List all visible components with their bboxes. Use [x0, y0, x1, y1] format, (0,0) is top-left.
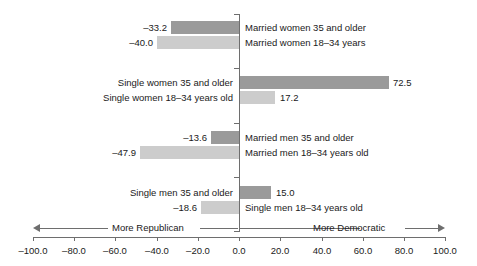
- x-tick: [115, 237, 116, 241]
- bar-label-married-men-35-and-older: Married men 35 and older: [245, 131, 354, 144]
- x-tick: [445, 237, 446, 241]
- x-tick-label: –60.0: [103, 245, 127, 257]
- bar-value-single-men-35-and-older: 15.0: [276, 186, 295, 199]
- x-tick: [33, 237, 34, 241]
- arrow-left-icon: [33, 224, 40, 232]
- bar-label-single-women-35-and-older: Single women 35 and older: [75, 76, 233, 89]
- group-notch: [234, 177, 239, 178]
- x-tick-label: 80.0: [395, 245, 414, 257]
- bar-value-married-women-18-34-years: –40.0: [96, 36, 153, 49]
- bar-value-single-men-18-34-years-old: –18.6: [140, 201, 197, 214]
- x-tick-label: –40.0: [145, 245, 169, 257]
- x-tick: [239, 237, 240, 241]
- bar-value-married-men-18-34-years-old: –47.9: [79, 146, 136, 159]
- x-tick-label: –20.0: [186, 245, 210, 257]
- bar-label-single-men-35-and-older: Single men 35 and older: [88, 186, 233, 199]
- bar-married-women-35-and-older: [171, 21, 239, 34]
- bar-label-married-women-18-34-years: Married women 18–34 years: [245, 36, 365, 49]
- bar-single-women-35-and-older: [240, 76, 389, 89]
- x-tick-label: 100.0: [433, 245, 457, 257]
- bar-married-women-18-34-years: [157, 36, 239, 49]
- arrow-right-icon: [438, 224, 445, 232]
- plot-area: –33.2 Married women 35 and older –40.0 M…: [0, 0, 477, 232]
- x-tick-label: 0.0: [232, 245, 245, 257]
- annotation-left-label: More Republican: [112, 222, 184, 234]
- direction-annotation-band: More Republican More Democratic: [0, 222, 477, 236]
- bar-label-single-women-18-34-years-old: Single women 18–34 years old: [63, 91, 233, 104]
- bar-value-married-women-35-and-older: –33.2: [110, 21, 167, 34]
- group-notch: [234, 68, 239, 69]
- bar-label-married-women-35-and-older: Married women 35 and older: [245, 21, 366, 34]
- annotation-rule-right: [405, 228, 438, 229]
- bar-single-women-18-34-years-old: [240, 91, 275, 104]
- diverging-bar-chart: –33.2 Married women 35 and older –40.0 M…: [0, 0, 477, 266]
- annotation-right-label: More Democratic: [313, 222, 385, 234]
- group-notch: [234, 123, 239, 124]
- x-tick-label: 60.0: [354, 245, 373, 257]
- bar-married-men-35-and-older: [211, 131, 239, 144]
- annotation-rule-left-inner: [200, 228, 238, 229]
- bar-label-single-men-18-34-years-old: Single men 18–34 years old: [245, 201, 363, 214]
- bar-value-single-women-18-34-years-old: 17.2: [280, 91, 299, 104]
- group-notch: [234, 14, 239, 15]
- bar-single-men-35-and-older: [240, 186, 271, 199]
- annotation-rule-left: [40, 228, 108, 229]
- x-tick: [322, 237, 323, 241]
- bar-value-married-men-35-and-older: –13.6: [150, 131, 207, 144]
- zero-axis-line: [239, 14, 240, 232]
- x-tick: [157, 237, 158, 241]
- x-tick: [198, 237, 199, 241]
- x-tick-label: 20.0: [271, 245, 290, 257]
- x-tick: [74, 237, 75, 241]
- x-tick: [363, 237, 364, 241]
- x-tick: [280, 237, 281, 241]
- x-tick-label: –80.0: [62, 245, 86, 257]
- bar-married-men-18-34-years-old: [140, 146, 239, 159]
- bar-label-married-men-18-34-years-old: Married men 18–34 years old: [245, 146, 369, 159]
- x-tick-label: 40.0: [313, 245, 332, 257]
- x-tick-label: –100.0: [18, 245, 47, 257]
- bar-single-men-18-34-years-old: [201, 201, 239, 214]
- bar-value-single-women-35-and-older: 72.5: [393, 76, 412, 89]
- x-tick: [404, 237, 405, 241]
